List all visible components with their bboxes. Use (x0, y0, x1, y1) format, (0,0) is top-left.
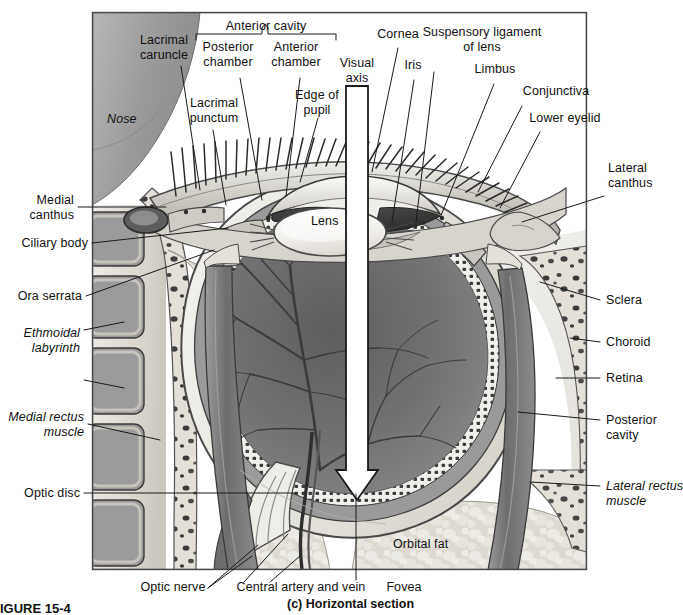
label-orbital-fat: Orbital fat (393, 537, 448, 552)
label-posterior-cavity: Posterior cavity (606, 413, 676, 442)
label-central-artery-and-vein: Central artery and vein (224, 580, 378, 595)
label-ora-serrata: Ora serrata (0, 289, 82, 304)
label-visual-axis: Visual axis (327, 56, 387, 85)
label-lens: Lens (311, 214, 339, 229)
label-lateral-canthus: Lateral canthus (608, 161, 670, 190)
label-sclera: Sclera (606, 293, 672, 308)
label-edge-of-pupil: Edge of pupil (282, 88, 352, 117)
label-medial-rectus-muscle: Medial rectus muscle (0, 410, 84, 439)
label-optic-nerve: Optic nerve (137, 580, 209, 595)
label-choroid: Choroid (606, 335, 672, 350)
figure-number: FIGURE 15-4 (0, 601, 71, 615)
label-lacrimal-punctum: Lacrimal punctum (176, 96, 252, 125)
label-optic-disc: Optic disc (0, 486, 80, 501)
label-anterior-cavity: Anterior cavity (196, 19, 336, 34)
label-medial-canthus: Medial canthus (0, 193, 74, 222)
label-iris: Iris (392, 58, 434, 73)
label-lacrimal-caruncle: Lacrimal caruncle (126, 33, 202, 62)
label-retina: Retina (606, 371, 672, 386)
label-ciliary-body: Ciliary body (0, 236, 88, 251)
label-fovea: Fovea (380, 580, 428, 595)
label-suspensory-ligament-of-lens: Suspensory ligament of lens (410, 25, 554, 54)
panel-caption: (c) Horizontal section (287, 597, 414, 611)
label-posterior-chamber: Posterior chamber (194, 40, 262, 69)
label-lateral-rectus-muscle: Lateral rectus muscle (606, 479, 676, 508)
label-anterior-chamber: Anterior chamber (262, 40, 330, 69)
label-conjunctiva: Conjunctiva (510, 84, 602, 99)
label-lower-eyelid: Lower eyelid (518, 111, 612, 126)
label-nose: Nose (107, 112, 137, 127)
label-limbus: Limbus (466, 62, 524, 77)
label-ethmoidal-labyrinth: Ethmoidal labyrinth (0, 326, 80, 355)
